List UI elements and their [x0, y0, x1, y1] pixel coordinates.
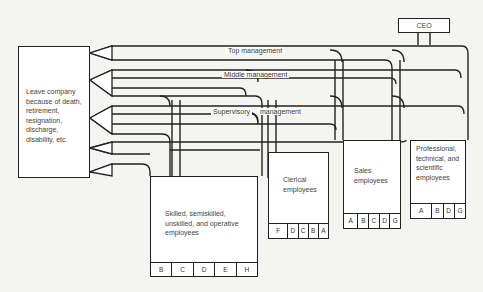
group-line: scientific [416, 163, 459, 173]
leave-line: resignation, [26, 116, 82, 126]
group-line: Sales [354, 166, 388, 176]
leave-line: Leave company [26, 87, 82, 97]
code-cell: B [151, 263, 172, 276]
group-label-clerical: Clerical employees [283, 175, 317, 194]
code-cell: B [309, 224, 319, 238]
code-row-skilled: B C D E H [150, 262, 258, 277]
employee-flow-diagram: CEO Leave company because of death, reti… [0, 0, 483, 292]
code-row-sales: A B C D G [343, 213, 401, 229]
group-label-professional: Professional, technical, and scientific … [416, 144, 459, 182]
code-cell: C [369, 214, 380, 228]
ceo-label: CEO [399, 21, 449, 31]
group-line: employees [416, 173, 459, 183]
code-cell: B [432, 204, 443, 218]
code-cell: C [299, 224, 309, 238]
code-row-professional: A B D G [410, 203, 466, 219]
leave-company-text: Leave company because of death, retireme… [26, 87, 82, 144]
channel-label-middle-management: Middle management [222, 71, 289, 78]
group-line: Skilled, semiskilled, [165, 209, 239, 219]
code-cell: D [288, 224, 298, 238]
leave-line: because of death, [26, 97, 82, 107]
leave-line: discharge, [26, 125, 82, 135]
group-line: employees [354, 176, 388, 186]
code-cell: E [215, 263, 236, 276]
code-cell: A [344, 214, 358, 228]
group-line: unskilled, and operative [165, 219, 239, 229]
group-label-skilled: Skilled, semiskilled, unskilled, and ope… [165, 209, 239, 238]
channel-label-top-management: Top management [226, 47, 284, 54]
group-label-sales: Sales employees [354, 166, 388, 185]
group-line: employees [283, 185, 317, 195]
code-cell: B [358, 214, 369, 228]
group-line: Professional, [416, 144, 459, 154]
code-row-clerical: F D C B A [268, 223, 329, 239]
group-line: technical, and [416, 154, 459, 164]
code-cell: D [194, 263, 215, 276]
ceo-box: CEO [398, 18, 450, 33]
leave-line: disability, etc. [26, 135, 82, 145]
code-cell: D [380, 214, 391, 228]
code-cell: H [237, 263, 257, 276]
leave-company-box: Leave company because of death, retireme… [18, 46, 90, 178]
code-cell: G [455, 204, 465, 218]
group-line: Clerical [283, 175, 317, 185]
code-cell: G [390, 214, 400, 228]
code-cell: D [444, 204, 455, 218]
leave-line: retirement, [26, 106, 82, 116]
code-cell: A [319, 224, 328, 238]
group-line: employees [165, 228, 239, 238]
channel-label-supervisory: Supervisory [211, 108, 252, 115]
code-cell: A [411, 204, 432, 218]
code-cell: F [269, 224, 288, 238]
code-cell: C [172, 263, 193, 276]
channel-label-management: management [258, 108, 303, 115]
